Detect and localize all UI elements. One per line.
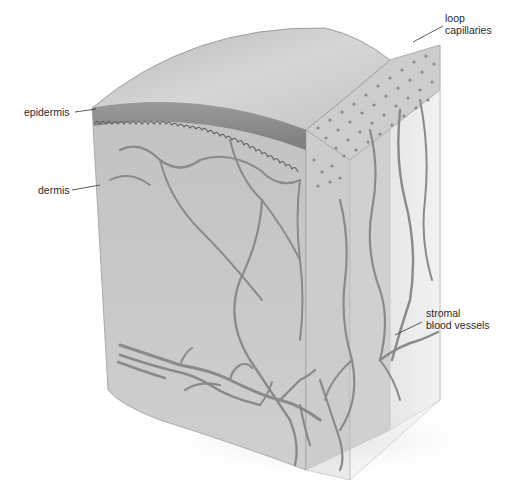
epidermis-label: epidermis — [24, 106, 70, 118]
loop-capillaries-label: loop capillaries — [445, 12, 492, 36]
epidermis-label-text: epidermis — [24, 106, 70, 118]
dermis-leader-line — [72, 185, 100, 190]
loop-capillaries-label-line2: capillaries — [445, 24, 492, 36]
dermis-front-face — [92, 102, 306, 470]
dermis-label-text: dermis — [38, 184, 70, 196]
loop-capillaries-label-line1: loop — [445, 12, 492, 24]
tissue-diagram: loop capillaries epidermis dermis stroma… — [0, 0, 522, 494]
loop-capillaries-leader-line — [413, 26, 443, 42]
stromal-label-line1: stromal — [426, 307, 490, 319]
tissue-block-illustration — [0, 0, 522, 494]
dermis-label: dermis — [38, 184, 70, 196]
stromal-label-line2: blood vessels — [426, 319, 490, 331]
stromal-blood-vessels-label: stromal blood vessels — [426, 307, 490, 331]
